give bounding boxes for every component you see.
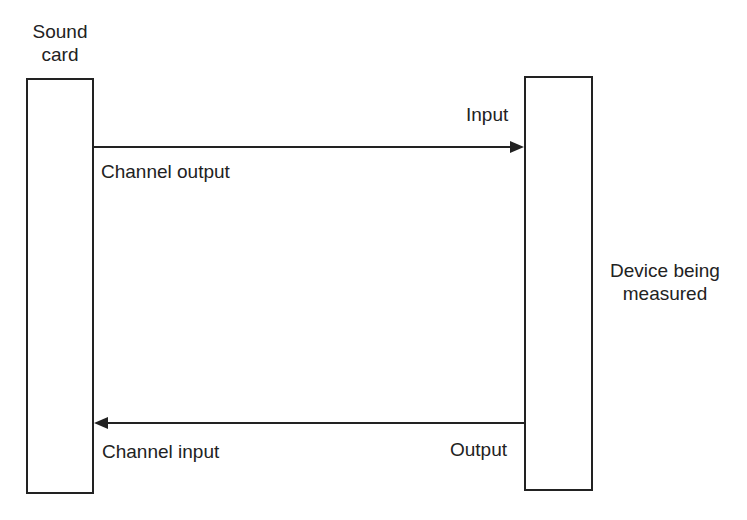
sound-card-label: Sound card — [20, 20, 100, 66]
output-label: Output — [450, 438, 507, 461]
input-label: Input — [466, 103, 508, 126]
channel-input-label: Channel input — [102, 440, 219, 463]
device-label: Device being measured — [595, 259, 735, 305]
channel-output-label: Channel output — [101, 160, 230, 183]
